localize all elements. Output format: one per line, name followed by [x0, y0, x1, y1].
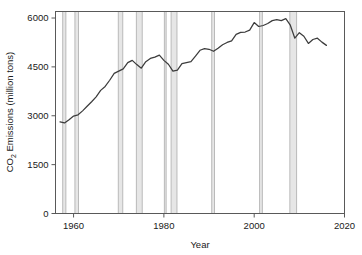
x-tick-label: 2020 — [334, 220, 355, 231]
x-tick-label: 1980 — [153, 220, 174, 231]
y-tick-label: 4500 — [27, 61, 48, 72]
recession-band — [290, 12, 297, 214]
recession-band — [75, 12, 79, 214]
recession-band — [63, 12, 66, 214]
chart-background — [0, 0, 362, 255]
x-axis-title: Year — [190, 239, 209, 250]
y-axis-title-group: CO2 Emissions (million tons) — [4, 52, 17, 173]
recession-band — [136, 12, 142, 214]
y-tick-label: 1500 — [27, 159, 48, 170]
y-tick-label: 6000 — [27, 12, 48, 23]
y-tick-label: 3000 — [27, 110, 48, 121]
co2-emissions-line-chart: 01500300045006000 1960198020002020 Year … — [0, 0, 362, 255]
y-axis-title: CO2 Emissions (million tons) — [4, 52, 17, 173]
x-tick-label: 1960 — [63, 220, 84, 231]
recession-band — [118, 12, 123, 214]
recession-band — [164, 12, 166, 214]
y-axis-title-suffix: Emissions (million tons) — [4, 52, 15, 154]
recession-band — [260, 12, 263, 214]
chart-figure: 01500300045006000 1960198020002020 Year … — [0, 0, 362, 255]
recession-band — [171, 12, 177, 214]
recession-band — [212, 12, 215, 214]
y-axis-title-prefix: CO — [4, 158, 15, 172]
y-tick-label: 0 — [43, 208, 48, 219]
x-tick-label: 2000 — [244, 220, 265, 231]
